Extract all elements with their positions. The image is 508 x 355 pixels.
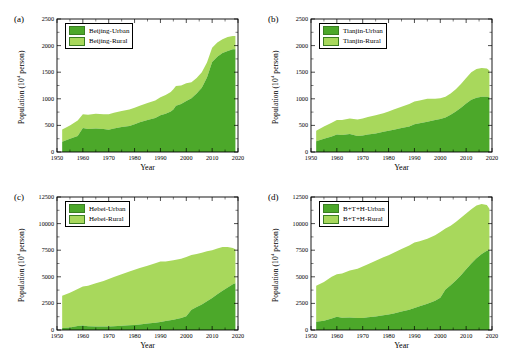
x-tick-label: 1990 [401,332,427,339]
panel-d: (d)0250050007500100001250019501960197019… [0,0,508,355]
y-tick-label: 5000 [278,273,308,280]
legend-swatch-rural [323,215,339,224]
y-tick-label: 12500 [278,193,308,200]
legend-item: B+T+H-Rural [323,215,385,224]
x-tick-label: 2020 [479,332,505,339]
legend-swatch-urban [323,204,339,213]
x-tick-label: 2010 [453,332,479,339]
legend-label: B+T+H-Rural [343,215,383,223]
y-tick-label: 10000 [278,220,308,227]
figure-population-stacked-areas: (a)0500100015002000250019501960197019801… [0,0,508,355]
y-axis-label: Population (104 person) [270,228,280,302]
x-tick-label: 2000 [427,332,453,339]
y-tick-label: 7500 [278,246,308,253]
plot-area [0,0,508,355]
y-tick-label: 2500 [278,299,308,306]
x-tick-label: 1960 [324,332,350,339]
legend: B+T+H-UrbanB+T+H-Rural [319,201,389,227]
legend-label: B+T+H-Urban [343,205,385,213]
x-tick-label: 1950 [298,332,324,339]
x-axis-label: Year [372,341,432,350]
x-tick-label: 1970 [350,332,376,339]
x-tick-label: 1980 [376,332,402,339]
legend-item: B+T+H-Urban [323,204,385,213]
